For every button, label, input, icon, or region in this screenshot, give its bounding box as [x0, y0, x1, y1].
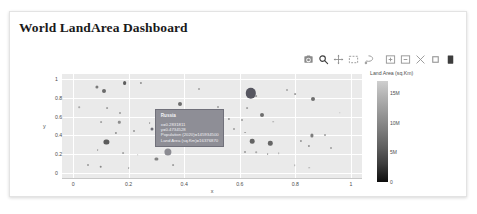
x-tick-label: 0	[72, 181, 75, 187]
reset-axes-icon[interactable]	[430, 54, 441, 65]
data-point[interactable]	[246, 107, 248, 109]
y-tick-label: 0.6	[55, 114, 62, 120]
data-point[interactable]	[198, 88, 200, 90]
data-point[interactable]	[278, 152, 280, 154]
plotly-logo-icon[interactable]	[445, 54, 456, 65]
tooltip-row: Land Area (sq.Km)=16376870	[161, 138, 219, 143]
pan-icon[interactable]	[333, 54, 344, 65]
gridline-horizontal	[62, 154, 362, 155]
data-point[interactable]	[286, 89, 288, 91]
y-tick-label: 0.4	[55, 132, 62, 138]
scatter-plot[interactable]: 00.20.40.60.81 10.80.60.40.20 y x Russia…	[22, 68, 456, 194]
y-axis-label: y	[43, 123, 46, 129]
data-point[interactable]	[87, 164, 89, 166]
data-point[interactable]	[308, 167, 310, 169]
colorbar-tick-label: 5M	[390, 149, 397, 155]
data-point[interactable]	[311, 97, 315, 101]
x-tick-label: 0.4	[181, 181, 188, 187]
gridline-horizontal	[62, 173, 362, 174]
data-point[interactable]	[244, 132, 246, 134]
x-tick-label: 0.6	[236, 181, 243, 187]
colorbar-tick-label: 0	[390, 179, 393, 185]
gridline-vertical	[73, 74, 74, 178]
data-point[interactable]	[172, 164, 174, 166]
camera-icon[interactable]	[303, 54, 314, 65]
gridline-horizontal	[62, 79, 362, 80]
x-axis-line	[62, 178, 362, 179]
data-point[interactable]	[294, 164, 296, 166]
gridline-vertical	[129, 74, 130, 178]
data-point[interactable]	[272, 121, 274, 123]
box-select-icon[interactable]	[348, 54, 359, 65]
data-point[interactable]	[100, 165, 103, 168]
data-point[interactable]	[256, 151, 258, 153]
data-point[interactable]	[78, 106, 80, 108]
data-point[interactable]	[133, 130, 135, 132]
zoom-out-icon[interactable]	[400, 54, 411, 65]
colorbar-tick-label: 15M	[390, 90, 400, 96]
data-point[interactable]	[241, 119, 243, 121]
tooltip-row: Population (2020)=145934500	[161, 132, 219, 137]
screenshot-root: World LandArea Dashboard	[0, 0, 477, 214]
x-tick-label: 0.2	[125, 181, 132, 187]
y-tick-label: 1	[55, 76, 58, 82]
data-point[interactable]	[123, 81, 127, 85]
data-point[interactable]	[256, 95, 258, 97]
zoom-in-icon[interactable]	[385, 54, 396, 65]
data-point[interactable]	[97, 149, 99, 151]
gridline-vertical	[240, 74, 241, 178]
data-point[interactable]	[233, 128, 235, 130]
data-point[interactable]	[330, 147, 332, 149]
data-point[interactable]	[267, 153, 269, 155]
y-tick-label: 0.8	[55, 95, 62, 101]
x-tick-label: 1	[349, 181, 352, 187]
data-point[interactable]	[137, 154, 139, 156]
lasso-select-icon[interactable]	[363, 54, 374, 65]
data-point[interactable]	[119, 112, 121, 114]
y-tick-label: 0	[55, 170, 58, 176]
data-point[interactable]	[128, 167, 130, 169]
data-point[interactable]	[102, 89, 106, 93]
colorbar-tick-label: 10M	[390, 120, 400, 126]
data-point[interactable]	[260, 113, 264, 117]
data-point[interactable]	[178, 102, 182, 106]
colorbar-title: Land Area (sq.Km)	[370, 70, 413, 76]
data-point[interactable]	[149, 122, 151, 124]
plotly-modebar[interactable]	[303, 52, 456, 66]
data-point[interactable]	[244, 151, 246, 153]
zoom-icon[interactable]	[318, 54, 329, 65]
page-title: World LandArea Dashboard	[19, 20, 188, 36]
y-tick-label: 0.2	[55, 151, 62, 157]
data-point[interactable]	[106, 107, 108, 109]
colorbar-gradient	[377, 81, 388, 182]
data-point[interactable]	[324, 134, 326, 136]
x-axis-label: x	[211, 188, 214, 194]
x-tick-label: 0.8	[292, 181, 299, 187]
autoscale-icon[interactable]	[415, 54, 426, 65]
gridline-vertical	[295, 74, 296, 178]
tooltip-title: Russia	[161, 113, 219, 118]
data-point[interactable]	[294, 93, 296, 95]
data-point[interactable]	[100, 121, 102, 123]
data-point[interactable]	[122, 152, 124, 154]
tooltip-anchor-point	[150, 127, 153, 130]
gridline-vertical	[351, 74, 352, 178]
hover-tooltip: Russia x=0.2831811 y=0.4734528 Populatio…	[155, 109, 224, 147]
data-point[interactable]	[250, 139, 255, 144]
dashboard-card: World LandArea Dashboard	[9, 11, 467, 197]
gridline-horizontal	[62, 98, 362, 99]
